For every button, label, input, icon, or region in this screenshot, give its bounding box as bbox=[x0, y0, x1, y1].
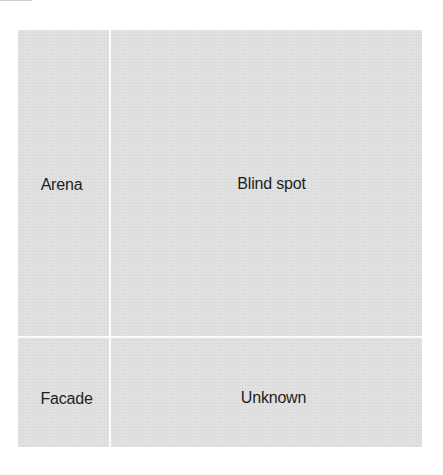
quadrant-blind-spot: Blind spot bbox=[111, 30, 422, 336]
quadrant-label-blind-spot: Blind spot bbox=[237, 175, 305, 193]
quadrant-arena: Arena bbox=[18, 30, 109, 336]
quadrant-label-unknown: Unknown bbox=[241, 389, 306, 407]
quadrant-facade: Facade bbox=[18, 338, 109, 447]
quadrant-label-arena: Arena bbox=[41, 176, 83, 194]
quadrant-label-facade: Facade bbox=[40, 390, 92, 408]
scan-artifact-line bbox=[0, 0, 32, 1]
quadrant-matrix: Arena Blind spot Facade Unknown bbox=[18, 30, 422, 447]
quadrant-unknown: Unknown bbox=[111, 338, 422, 447]
